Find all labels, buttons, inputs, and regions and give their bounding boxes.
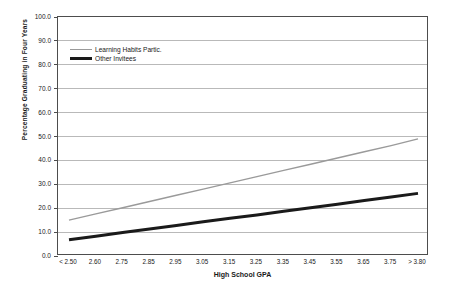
y-axis-tick-label: 20.0 bbox=[11, 204, 51, 211]
x-axis-tick-label: 2.60 bbox=[89, 258, 101, 265]
x-axis-tick-label: < 2.50 bbox=[59, 258, 77, 265]
x-axis-tick-label: 3.65 bbox=[357, 258, 369, 265]
y-axis-tick-label: 0.0 bbox=[11, 252, 51, 259]
x-axis-tick-label: 2.95 bbox=[169, 258, 181, 265]
legend: Learning Habits Partic. Other Invitees bbox=[70, 45, 162, 63]
legend-label: Other Invitees bbox=[95, 54, 136, 63]
y-axis-tick-label: 50.0 bbox=[11, 132, 51, 139]
legend-swatch-icon bbox=[70, 57, 92, 60]
x-axis-tick-label: 2.75 bbox=[116, 258, 128, 265]
legend-swatch-icon bbox=[70, 49, 92, 50]
y-axis-tick-label: 60.0 bbox=[11, 108, 51, 115]
series-line bbox=[69, 139, 418, 220]
x-axis-tick-labels: < 2.502.602.752.852.953.053.153.253.353.… bbox=[57, 258, 428, 270]
x-axis-tick-label: 3.55 bbox=[330, 258, 342, 265]
x-axis-tick-label: > 3.80 bbox=[408, 258, 426, 265]
plot-area: Learning Habits Partic. Other Invitees bbox=[57, 16, 428, 255]
y-axis-tick-label: 90.0 bbox=[11, 36, 51, 43]
chart-container: Percentage Graduating in Four Years Lear… bbox=[0, 0, 451, 289]
x-axis-title: High School GPA bbox=[57, 271, 428, 278]
x-axis-tick-label: 3.75 bbox=[384, 258, 396, 265]
x-axis-tick-label: 2.85 bbox=[142, 258, 154, 265]
y-axis-tick-label: 70.0 bbox=[11, 84, 51, 91]
y-axis-tick-label: 30.0 bbox=[11, 180, 51, 187]
legend-item: Learning Habits Partic. bbox=[70, 45, 162, 54]
y-axis-tick-label: 40.0 bbox=[11, 156, 51, 163]
x-axis-tick-label: 3.35 bbox=[277, 258, 289, 265]
y-axis-tick-label: 10.0 bbox=[11, 228, 51, 235]
y-axis-tick-label: 80.0 bbox=[11, 60, 51, 67]
legend-item: Other Invitees bbox=[70, 54, 162, 63]
y-axis-tick-label: 100.0 bbox=[11, 13, 51, 20]
x-axis-tick-label: 3.05 bbox=[196, 258, 208, 265]
x-axis-tick-label: 3.45 bbox=[303, 258, 315, 265]
legend-label: Learning Habits Partic. bbox=[95, 45, 162, 54]
x-axis-tick-label: 3.25 bbox=[250, 258, 262, 265]
x-axis-tick-label: 3.15 bbox=[223, 258, 235, 265]
series-line bbox=[69, 193, 418, 239]
